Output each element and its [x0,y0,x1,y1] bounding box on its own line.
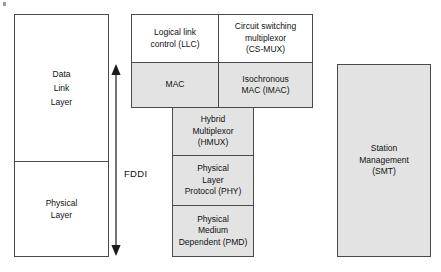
osi-data-link-line-3: Layer [51,95,72,109]
scan-artifact-speck [3,2,6,6]
pmd-line-1: Physical [197,214,229,226]
phy-line-3: Protocol (PHY) [185,186,242,198]
fddi-scope-label: FDDI [124,168,147,179]
osi-physical-layer-box: Physical Layer [14,161,109,257]
smt-line-1: Station [371,143,397,155]
hmux-line-1: Hybrid [201,114,226,126]
llc-line-1: Logical link [154,27,196,39]
fddi-architecture-diagram: Data Link Layer Physical Layer FDDI Logi… [0,0,441,272]
pmd-line-3: Dependent (PMD) [179,237,248,249]
llc-box: Logical link control (LLC) [131,14,219,63]
llc-line-2: control (LLC) [150,39,199,51]
cs-mux-line-3: (CS-MUX) [246,44,285,56]
osi-data-link-layer-box: Data Link Layer [14,14,109,162]
mac-line-1: MAC [166,79,185,91]
smt-line-3: (SMT) [372,166,396,178]
hmux-line-3: (HMUX) [198,137,229,149]
osi-data-link-line-1: Data [53,67,71,81]
phy-line-2: Layer [202,175,223,187]
cs-mux-box: Circuit switching multiplexor (CS-MUX) [218,14,313,63]
hmux-box: Hybrid Multiplexor (HMUX) [172,107,254,156]
imac-line-2: MAC (IMAC) [241,85,289,97]
fddi-scope-double-arrow-icon [108,64,124,256]
osi-data-link-line-2: Link [54,81,70,95]
phy-line-1: Physical [197,163,229,175]
hmux-line-2: Multiplexor [192,126,233,138]
pmd-line-2: Medium [198,225,228,237]
pmd-box: Physical Medium Dependent (PMD) [172,205,254,257]
imac-box: Isochronous MAC (IMAC) [218,62,313,108]
cs-mux-line-1: Circuit switching [235,21,296,33]
smt-line-2: Management [359,155,409,167]
station-management-box: Station Management (SMT) [337,64,431,257]
phy-box: Physical Layer Protocol (PHY) [172,155,254,206]
mac-box: MAC [131,62,219,108]
imac-line-1: Isochronous [242,74,288,86]
osi-physical-line-2: Layer [51,209,72,222]
cs-mux-line-2: multiplexor [245,33,286,45]
osi-physical-line-1: Physical [46,197,78,210]
